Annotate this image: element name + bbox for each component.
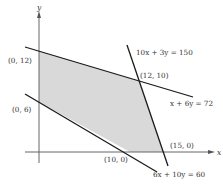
constraint-label-6x-10y-60: 6x + 10y = 60 [153,170,206,179]
x-axis-label: x [217,148,222,157]
constraint-label-x-6y-72: x + 6y = 72 [170,99,213,108]
x-axis-arrow-icon [208,150,215,154]
vertex-label-0-12: (0, 12) [8,56,32,65]
feasible-region [39,51,163,152]
vertex-label-10-0: (10, 0) [104,155,128,164]
constraint-label-10x-3y-150: 10x + 3y = 150 [136,48,193,57]
y-axis-label: y [36,3,42,12]
vertex-label-12-10: (12, 10) [140,71,169,80]
vertex-label-0-6: (0, 6) [12,105,32,114]
y-axis-arrow-icon [37,11,41,18]
feasible-region-diagram: y x 10x + 3y = 150 x + 6y = 72 6x + 10y … [0,0,223,188]
vertex-label-15-0: (15, 0) [170,141,194,150]
